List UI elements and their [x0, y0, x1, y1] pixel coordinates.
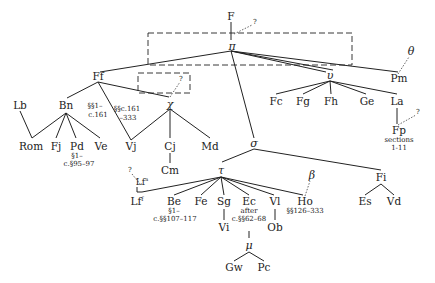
node-Fp: Fp	[392, 124, 406, 136]
node-Lf: Lff	[130, 195, 144, 207]
node-Fc: Fc	[269, 95, 282, 107]
node-Fe: Fe	[195, 195, 208, 207]
node-unknown-top: ?	[253, 18, 257, 26]
node-beta: β	[308, 169, 315, 182]
node-Sg: Sg	[217, 195, 231, 207]
node-Vl: Vl	[269, 195, 282, 207]
node-Be: Be	[167, 195, 181, 207]
node-Vi: Vi	[218, 221, 230, 233]
node-Ge: Ge	[360, 95, 375, 107]
note-fp-1: sections	[384, 136, 413, 144]
node-labels: F ? π Ff υ Pm θ Lb Bn Rom Fj Pd Ve Vj χ …	[13, 10, 420, 273]
node-chi: χ	[166, 98, 175, 111]
note-chi-vj-1: §§c.161	[114, 105, 141, 113]
node-Ff: Ff	[92, 70, 104, 82]
node-Pc: Pc	[258, 261, 271, 273]
node-F: F	[227, 10, 234, 22]
node-Rom: Rom	[19, 140, 43, 152]
node-Bn: Bn	[59, 99, 74, 111]
note-chi-vj-2: –333	[120, 114, 137, 122]
node-Pd: Pd	[70, 140, 84, 152]
node-Cj: Cj	[164, 140, 175, 152]
node-sigma: σ	[250, 137, 258, 150]
node-upsilon: υ	[327, 69, 334, 82]
note-ec-1: after	[240, 207, 258, 215]
node-Ec: Ec	[242, 195, 256, 207]
node-Fh: Fh	[324, 95, 338, 107]
note-ho-1: §§126–333	[286, 207, 323, 215]
node-Vd: Vd	[386, 195, 402, 207]
node-La: La	[390, 95, 403, 107]
node-Ve: Ve	[94, 140, 108, 152]
node-tau: τ	[218, 164, 225, 177]
node-Fj: Fj	[51, 140, 62, 152]
note-fp-2: 1-11	[391, 144, 407, 152]
node-pi: π	[227, 40, 236, 53]
node-Lf-a: Lfa	[136, 176, 148, 187]
node-mu: μ	[245, 239, 252, 252]
note-be-2: c.§§107–117	[153, 215, 196, 223]
node-Cm: Cm	[161, 164, 179, 176]
note-pd-2: c.§95–97	[64, 160, 95, 168]
node-unknown-chi: ?	[179, 75, 183, 83]
note-ff-vj-1: §§1–	[88, 102, 103, 110]
node-Pm: Pm	[390, 72, 407, 84]
node-Ob: Ob	[267, 221, 283, 233]
note-pd-1: §1–	[71, 152, 83, 160]
node-Gw: Gw	[225, 261, 242, 273]
node-unknown-lf: ?	[128, 166, 132, 174]
note-ff-vj-2: c.161	[88, 111, 108, 119]
node-Md: Md	[201, 140, 219, 152]
node-Fi: Fi	[376, 171, 387, 183]
node-theta: θ	[408, 45, 415, 58]
node-Fg: Fg	[296, 95, 310, 107]
node-Es: Es	[358, 195, 371, 207]
node-Ho: Ho	[297, 195, 312, 207]
note-be-1: §1–	[168, 207, 180, 215]
stemma-diagram: F ? π Ff υ Pm θ Lb Bn Rom Fj Pd Ve Vj χ …	[0, 0, 435, 283]
note-ec-2: c.§§62–68	[232, 215, 266, 223]
node-Vj: Vj	[125, 140, 137, 152]
node-Lb: Lb	[13, 99, 27, 111]
dashed-box-pi	[148, 33, 352, 65]
node-unknown-fp: ?	[416, 108, 420, 116]
